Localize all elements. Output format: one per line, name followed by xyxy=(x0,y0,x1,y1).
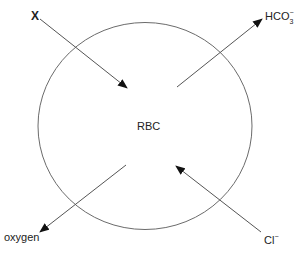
bicarbonate-subscript: 3 xyxy=(289,18,293,25)
diagram-canvas xyxy=(0,0,302,268)
chloride-charge: − xyxy=(274,233,278,240)
bicarbonate-label: HCO−3 xyxy=(265,11,293,22)
chloride-label-base: Cl xyxy=(264,234,274,246)
bicarbonate-arrow xyxy=(177,19,262,87)
rbc-label: RBC xyxy=(137,121,160,132)
oxygen-arrow xyxy=(40,165,126,232)
x-label: X xyxy=(31,10,39,22)
bicarbonate-charge: − xyxy=(289,9,293,16)
oxygen-label: oxygen xyxy=(4,232,39,243)
bicarbonate-label-base: HCO xyxy=(265,10,289,22)
chloride-label: Cl− xyxy=(264,235,278,246)
x-arrow xyxy=(40,19,127,88)
bicarbonate-label-script: −3 xyxy=(289,11,293,22)
chloride-arrow xyxy=(176,166,261,232)
